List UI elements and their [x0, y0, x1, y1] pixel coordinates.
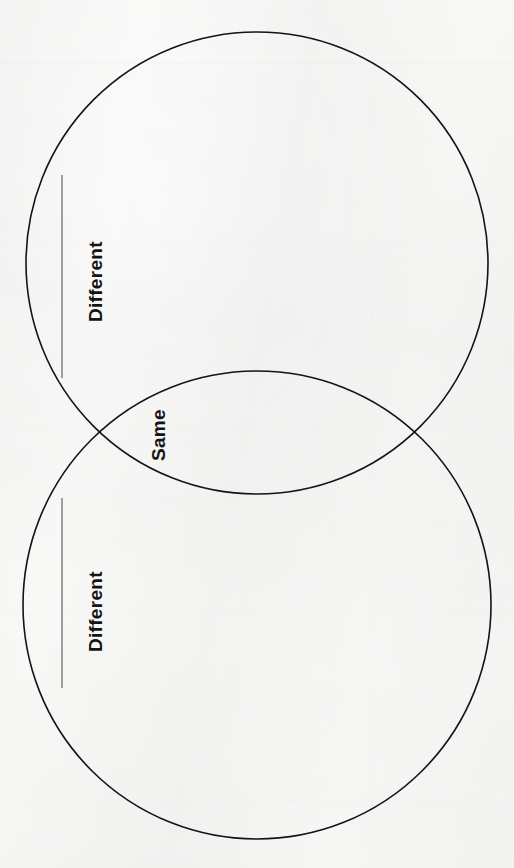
worksheet-page: Different Same Different	[0, 0, 514, 868]
venn-diagram	[0, 0, 514, 868]
label-same: Same	[148, 409, 170, 461]
label-different-bottom: Different	[85, 571, 107, 652]
label-different-top: Different	[85, 241, 107, 322]
